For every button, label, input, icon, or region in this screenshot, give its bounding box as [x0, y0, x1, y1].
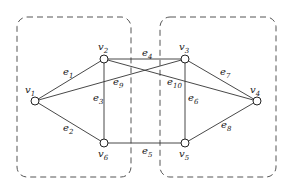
node-label-v6-subscript: 6: [104, 154, 109, 162]
node-v2: [100, 55, 108, 63]
edge-e2: [35, 101, 104, 143]
edge-label-e3: e3: [93, 92, 104, 106]
edge-label-e8: e8: [221, 119, 232, 133]
edge-label-e1: e1: [63, 66, 73, 80]
edge-label-e6: e6: [188, 92, 199, 106]
node-v6: [100, 139, 108, 147]
edge-e10: [104, 59, 257, 101]
edge-label-e5: e5: [142, 145, 153, 159]
node-label-v5-subscript: 5: [185, 154, 190, 162]
edge-label-e7-subscript: 7: [226, 72, 231, 80]
edge-label-e4: e4: [142, 47, 152, 61]
node-v3: [181, 55, 189, 63]
edge-label-e6-subscript: 6: [194, 98, 199, 106]
node-label-v2: v2: [98, 41, 109, 55]
edge-label-e1-subscript: 1: [69, 72, 73, 80]
graph-canvas: e1e2e3e4e5e6e7e8e9e10 v1v2v3v4v5v6: [0, 0, 288, 192]
node-label-v6: v6: [98, 148, 109, 162]
edge-label-e10-subscript: 10: [173, 82, 182, 90]
node-label-v3: v3: [179, 41, 190, 55]
node-label-v1: v1: [25, 84, 35, 98]
edge-label-e4-subscript: 4: [147, 53, 152, 61]
node-label-v2-subscript: 2: [103, 47, 109, 55]
edge-label-e7: e7: [220, 66, 231, 80]
edge-label-e9: e9: [113, 76, 124, 90]
node-label-v4-subscript: 4: [255, 90, 260, 98]
node-label-v4: v4: [250, 84, 260, 98]
node-label-v1-subscript: 1: [31, 90, 35, 98]
graph-diagram: e1e2e3e4e5e6e7e8e9e10 v1v2v3v4v5v6: [0, 0, 288, 192]
edge-e9: [35, 59, 185, 101]
node-label-v3-subscript: 3: [185, 47, 190, 55]
edge-label-e8-subscript: 8: [227, 125, 232, 133]
edge-label-e3-subscript: 3: [99, 98, 104, 106]
edge-label-e5-subscript: 5: [148, 151, 153, 159]
edge-label-e2-subscript: 2: [68, 128, 74, 136]
edge-label-e9-subscript: 9: [119, 82, 124, 90]
node-label-v5: v5: [179, 148, 190, 162]
node-v5: [181, 139, 189, 147]
node-v4: [253, 97, 261, 105]
edge-labels-layer: e1e2e3e4e5e6e7e8e9e10: [63, 47, 232, 159]
node-v1: [31, 97, 39, 105]
